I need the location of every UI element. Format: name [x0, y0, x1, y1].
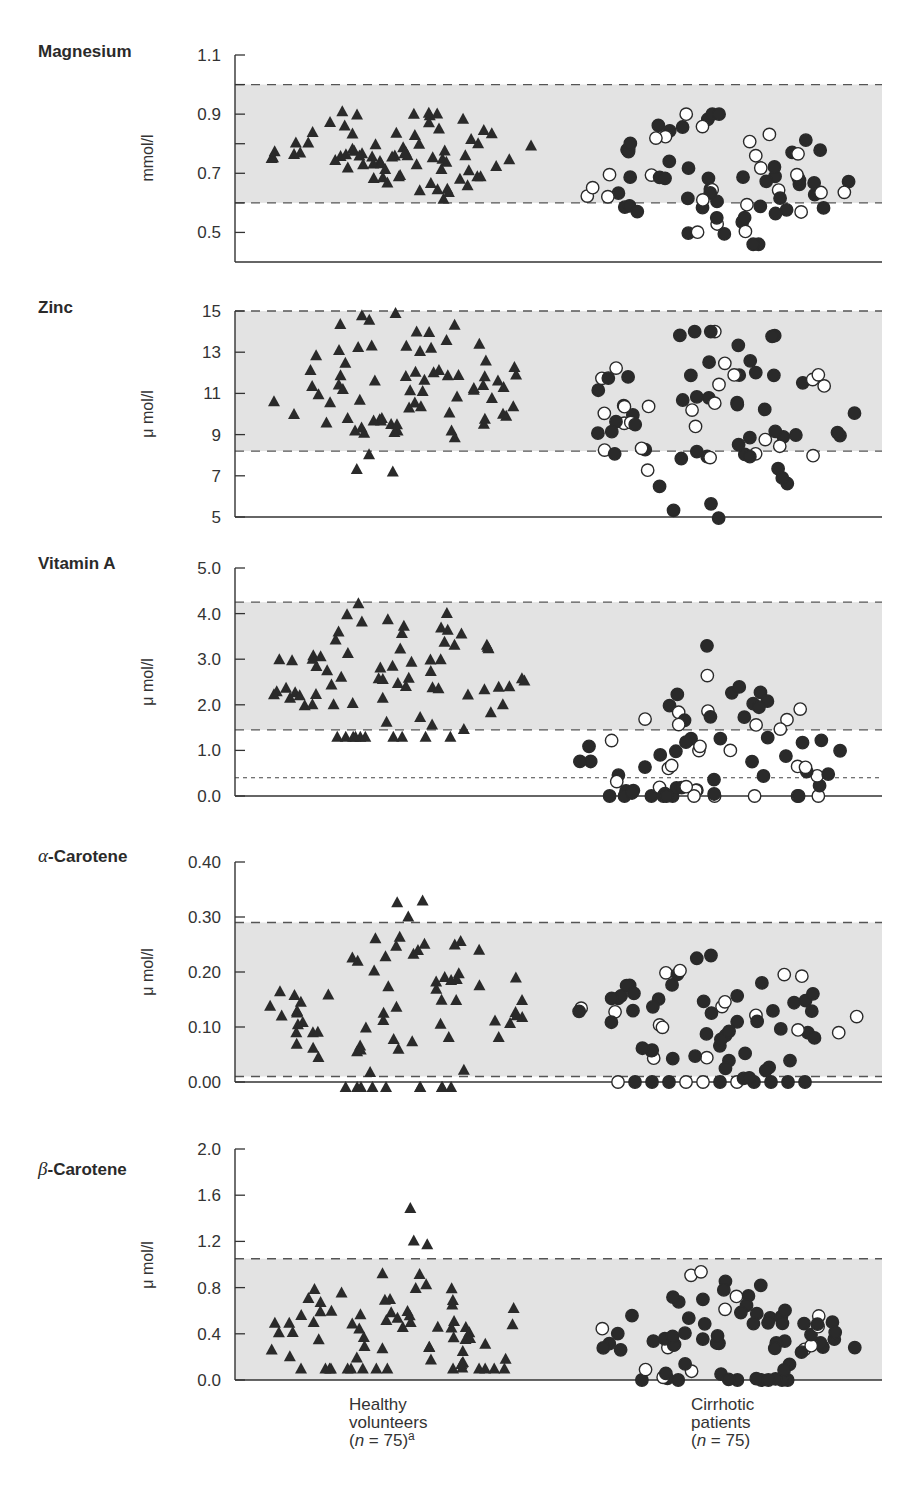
filled-circle-marker-icon [731, 398, 743, 410]
filled-circle-marker-icon [762, 1374, 774, 1386]
filled-circle-marker-icon [603, 790, 615, 802]
filled-circle-marker-icon [744, 431, 756, 443]
filled-circle-marker-icon [747, 238, 759, 250]
filled-circle-marker-icon [608, 448, 620, 460]
triangle-marker-icon [351, 463, 363, 474]
panel-carotene: 0.400.300.200.100.00α-Caroteneμ mol/l [38, 845, 882, 1092]
open-circle-marker-icon [792, 148, 804, 160]
triangle-marker-icon [396, 731, 408, 742]
reference-range-band [235, 85, 882, 203]
panel-title: Magnesium [38, 42, 132, 61]
reference-range-band [235, 311, 882, 451]
filled-circle-marker-icon [738, 711, 750, 723]
healthy-label: Healthy [349, 1395, 407, 1414]
y-tick-label: 0.40 [188, 853, 221, 872]
y-tick-label: 0.9 [197, 105, 221, 124]
panel-magnesium: 1.10.90.70.5Magnesiummmol/l [38, 42, 882, 262]
filled-circle-marker-icon [722, 1373, 734, 1385]
triangle-marker-icon [417, 895, 429, 906]
filled-circle-marker-icon [685, 369, 697, 381]
y-tick-label: 13 [202, 343, 221, 362]
filled-circle-marker-icon [759, 403, 771, 415]
filled-circle-marker-icon [691, 445, 703, 457]
filled-circle-marker-icon [691, 952, 703, 964]
panel-vitamin-a: 5.04.03.02.01.00.0Vitamin Aμ mol/l [38, 554, 882, 806]
triangle-marker-icon [421, 1238, 433, 1249]
filled-circle-marker-icon [760, 175, 772, 187]
filled-circle-marker-icon [765, 1076, 777, 1088]
filled-circle-marker-icon [806, 1005, 818, 1017]
filled-circle-marker-icon [701, 640, 713, 652]
filled-circle-marker-icon [829, 1326, 841, 1338]
open-circle-marker-icon [750, 150, 762, 162]
panel-zinc: 151311975Zincμ mol/l [38, 298, 882, 527]
open-circle-marker-icon [812, 369, 824, 381]
filled-circle-marker-icon [711, 1330, 723, 1342]
filled-circle-marker-icon [849, 1341, 861, 1353]
filled-circle-marker-icon [798, 1317, 810, 1329]
filled-circle-marker-icon [732, 438, 744, 450]
y-tick-label: 0.0 [197, 1371, 221, 1390]
filled-circle-marker-icon [679, 1327, 691, 1339]
open-circle-marker-icon [680, 108, 692, 120]
filled-circle-marker-icon [788, 997, 800, 1009]
open-circle-marker-icon [701, 669, 713, 681]
y-tick-label: 1.1 [197, 46, 221, 65]
filled-circle-marker-icon [751, 1015, 763, 1027]
filled-circle-marker-icon [714, 1076, 726, 1088]
filled-circle-marker-icon [605, 992, 617, 1004]
filled-circle-marker-icon [697, 995, 709, 1007]
open-circle-marker-icon [850, 1010, 862, 1022]
filled-circle-marker-icon [792, 790, 804, 802]
filled-circle-marker-icon [766, 330, 778, 342]
filled-circle-marker-icon [627, 1005, 639, 1017]
y-tick-label: 0.7 [197, 164, 221, 183]
filled-circle-marker-icon [713, 108, 725, 120]
panel-carotene: 2.01.61.20.80.40.0β-Caroteneμ mol/l [37, 1140, 882, 1390]
open-circle-marker-icon [795, 206, 807, 218]
y-axis-unit-label: μ mol/l [139, 390, 156, 437]
open-circle-marker-icon [697, 194, 709, 206]
cirrhotic-n-label: (n = 75) [691, 1431, 750, 1450]
filled-circle-marker-icon [769, 1342, 781, 1354]
cirrhotic-label: Cirrhotic [691, 1395, 755, 1414]
filled-circle-marker-icon [666, 1330, 678, 1342]
open-circle-marker-icon [799, 761, 811, 773]
filled-circle-marker-icon [834, 745, 846, 757]
filled-circle-marker-icon [735, 1306, 747, 1318]
filled-circle-marker-icon [667, 1052, 679, 1064]
triangle-marker-icon [331, 731, 343, 742]
filled-circle-marker-icon [626, 1310, 638, 1322]
open-circle-marker-icon [833, 1026, 845, 1038]
filled-circle-marker-icon [753, 701, 765, 713]
open-circle-marker-icon [586, 182, 598, 194]
open-circle-marker-icon [730, 1290, 742, 1302]
filled-circle-marker-icon [672, 1374, 684, 1386]
filled-circle-marker-icon [718, 228, 730, 240]
filled-circle-marker-icon [675, 452, 687, 464]
filled-circle-marker-icon [631, 205, 643, 217]
filled-circle-marker-icon [782, 1076, 794, 1088]
filled-circle-marker-icon [750, 366, 762, 378]
filled-circle-marker-icon [712, 512, 724, 524]
y-tick-label: 4.0 [197, 605, 221, 624]
open-circle-marker-icon [602, 191, 614, 203]
open-circle-marker-icon [696, 120, 708, 132]
filled-circle-marker-icon [676, 121, 688, 133]
filled-circle-marker-icon [814, 144, 826, 156]
open-circle-marker-icon [695, 1266, 707, 1278]
filled-circle-marker-icon [624, 137, 636, 149]
open-circle-marker-icon [838, 186, 850, 198]
open-circle-marker-icon [680, 780, 692, 792]
open-circle-marker-icon [605, 734, 617, 746]
filled-circle-marker-icon [622, 371, 634, 383]
open-circle-marker-icon [694, 740, 706, 752]
filled-circle-marker-icon [774, 192, 786, 204]
filled-circle-marker-icon [769, 207, 781, 219]
triangle-marker-icon [408, 1234, 420, 1245]
open-circle-marker-icon [794, 703, 806, 715]
y-tick-label: 5 [212, 508, 221, 527]
filled-circle-marker-icon [708, 788, 720, 800]
filled-circle-marker-icon [778, 1364, 790, 1376]
open-circle-marker-icon [641, 464, 653, 476]
